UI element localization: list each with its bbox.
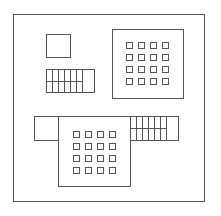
bottom-center-block: [59, 117, 131, 187]
bottom-center-block-pad: [74, 144, 80, 150]
top-right-block-pad: [127, 43, 133, 49]
top-right-block-pad: [139, 67, 145, 73]
top-right-block-pad: [163, 55, 169, 61]
bottom-center-block-pad: [86, 132, 92, 138]
top-right-block-pad: [151, 43, 157, 49]
bottom-center-block-pad: [110, 144, 116, 150]
top-right-block-pad: [151, 79, 157, 85]
block-diagram: [0, 0, 221, 216]
top-right-block-pad: [163, 67, 169, 73]
top-right-block: [113, 30, 184, 99]
top-right-block-pad: [127, 79, 133, 85]
top-right-block-pad: [139, 43, 145, 49]
bottom-center-block-pad: [86, 156, 92, 162]
bottom-center-block-pad: [74, 168, 80, 174]
bottom-center-block-pad: [86, 144, 92, 150]
bottom-left-block: [35, 117, 59, 141]
bottom-center-block-pad: [110, 156, 116, 162]
bottom-center-block-pad: [98, 156, 104, 162]
bottom-center-block-pad: [98, 168, 104, 174]
top-right-block-pad: [139, 79, 145, 85]
top-right-block-pad: [163, 79, 169, 85]
bottom-center-block-pad: [74, 132, 80, 138]
top-right-block-pad: [127, 55, 133, 61]
top-right-block-pad: [151, 55, 157, 61]
top-left-block: [47, 35, 71, 58]
bottom-center-block-pad: [74, 156, 80, 162]
bottom-center-block-pad: [98, 132, 104, 138]
top-right-block-pad: [139, 55, 145, 61]
bottom-center-block-pad: [86, 168, 92, 174]
top-right-block-pad: [163, 43, 169, 49]
bottom-center-block-pad: [110, 132, 116, 138]
bottom-center-block-pad: [98, 144, 104, 150]
bottom-center-block-pad: [110, 168, 116, 174]
top-right-block-pad: [127, 67, 133, 73]
top-right-block-pad: [151, 67, 157, 73]
